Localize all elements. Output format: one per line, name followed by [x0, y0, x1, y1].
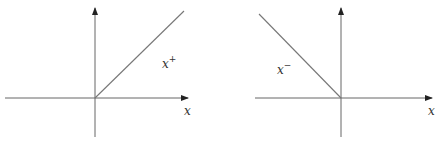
left-function-label: x+: [162, 54, 176, 71]
right-x-axis-label: x: [428, 104, 435, 118]
right-function-label: x−: [277, 60, 291, 77]
figure-canvas: x+ x x− x: [0, 0, 439, 143]
left-x-axis-label: x: [184, 104, 191, 118]
right-curve-negative-part: [259, 14, 341, 98]
right-panel-negative-part: x− x: [255, 8, 435, 137]
left-panel-positive-part: x+ x: [5, 8, 191, 137]
